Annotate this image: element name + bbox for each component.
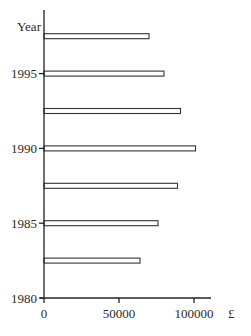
y-tick-label: 1990 (11, 141, 37, 156)
bar-chart: 1980198519901995 050000100000 Year £ (0, 0, 251, 336)
y-tick-label: 1985 (11, 216, 37, 231)
bar-1995 (44, 71, 164, 76)
bar-1985 (44, 221, 158, 226)
y-ticks: 1980198519901995 (11, 66, 44, 305)
bar-1987.5 (44, 183, 178, 188)
bar-1982.5 (44, 258, 140, 263)
y-axis-label: Year (17, 19, 42, 34)
axes (40, 10, 211, 298)
bars (44, 34, 196, 263)
x-tick-label: 100000 (175, 306, 214, 321)
bar-1990 (44, 146, 196, 151)
y-tick-label: 1995 (11, 66, 37, 81)
bar-1997.5 (44, 34, 149, 39)
bar-1992.5 (44, 109, 181, 114)
x-tick-label: 0 (41, 306, 48, 321)
y-tick-label: 1980 (11, 291, 37, 306)
x-tick-label: 50000 (103, 306, 136, 321)
x-ticks: 050000100000 (41, 298, 214, 321)
x-axis-label: £ (228, 306, 235, 321)
